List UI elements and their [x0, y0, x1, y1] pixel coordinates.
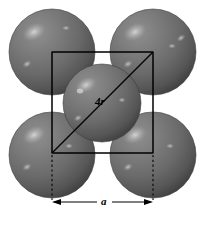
diagonal-label-4r: 4r: [95, 96, 105, 107]
crystal-structure-figure: 4r a: [0, 0, 208, 225]
unit-cell-illustration: [0, 0, 208, 225]
edge-label-a: a: [101, 196, 107, 207]
